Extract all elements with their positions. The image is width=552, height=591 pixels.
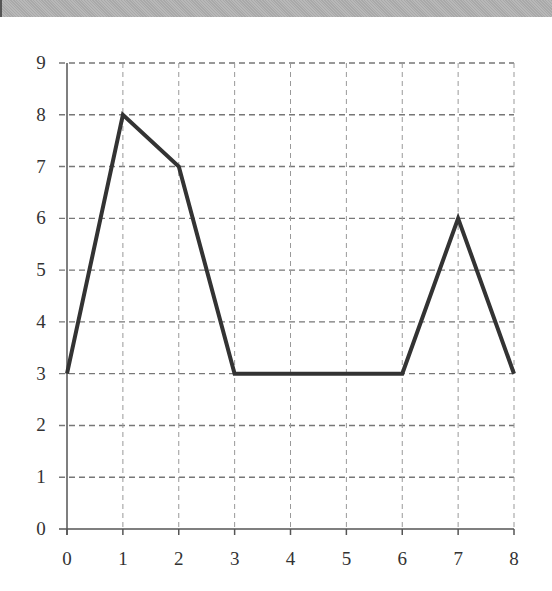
- x-axis-tick-labels: 012345678: [62, 548, 519, 569]
- x-tick-label: 3: [230, 548, 240, 569]
- x-tick-label: 2: [174, 548, 184, 569]
- x-tick-label: 4: [286, 548, 296, 569]
- x-tick-label: 0: [62, 548, 72, 569]
- y-tick-label: 1: [36, 466, 46, 487]
- line-chart: 0123456789 012345678: [0, 0, 552, 591]
- y-tick-label: 3: [36, 363, 46, 384]
- y-tick-label: 5: [36, 259, 46, 280]
- y-tick-label: 7: [36, 156, 46, 177]
- y-tick-label: 9: [36, 52, 46, 73]
- axes: [59, 63, 514, 535]
- y-tick-label: 4: [36, 311, 46, 332]
- x-tick-label: 7: [453, 548, 463, 569]
- grid-lines: [59, 63, 514, 529]
- x-tick-label: 6: [398, 548, 408, 569]
- y-axis-tick-labels: 0123456789: [36, 52, 46, 539]
- y-tick-label: 0: [36, 518, 46, 539]
- x-tick-label: 8: [509, 548, 519, 569]
- x-tick-label: 1: [118, 548, 128, 569]
- y-tick-label: 2: [36, 414, 46, 435]
- y-tick-label: 8: [36, 104, 46, 125]
- y-tick-label: 6: [36, 207, 46, 228]
- x-tick-label: 5: [342, 548, 352, 569]
